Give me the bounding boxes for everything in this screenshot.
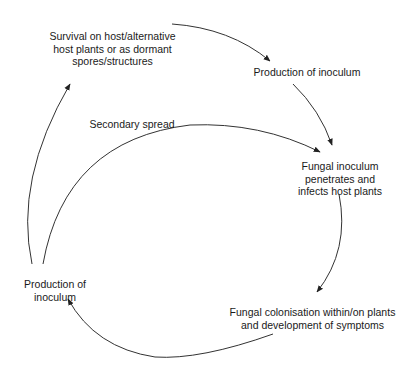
node-survival-line-1: Survival on host/alternative (40, 30, 185, 43)
node-colonisation-line-2: and development of symptoms (225, 319, 400, 332)
arrow-secondary-spread (43, 125, 320, 264)
node-production-of-inoculum-left: Production of inoculum (15, 278, 95, 303)
node-survival-line-3: spores/structures (40, 55, 185, 68)
node-production-left-line-1: Production of (15, 278, 95, 291)
node-penetrates-line-2: penetrates and (290, 173, 390, 186)
arrow-production-left-to-survival (28, 84, 70, 264)
node-penetrates-line-3: infects host plants (290, 185, 390, 198)
node-production-of-inoculum-top: Production of inoculum (232, 66, 382, 79)
node-survival-line-2: host plants or as dormant (40, 43, 185, 56)
arrow-penetrates-to-colonisation (317, 194, 342, 292)
node-penetrates-line-1: Fungal inoculum (290, 160, 390, 173)
edge-label-secondary-spread: Secondary spread (82, 118, 182, 131)
arrow-production-to-penetrates (293, 84, 332, 145)
secondary-spread-label: Secondary spread (82, 118, 182, 131)
node-survival: Survival on host/alternative host plants… (40, 30, 185, 68)
node-fungal-colonisation: Fungal colonisation within/on plants and… (225, 306, 400, 331)
node-colonisation-line-1: Fungal colonisation within/on plants (225, 306, 400, 319)
node-production-left-line-2: inoculum (15, 291, 95, 304)
arrow-survival-to-production (172, 24, 270, 61)
node-fungal-inoculum-penetrates: Fungal inoculum penetrates and infects h… (290, 160, 390, 198)
node-production-top-line-1: Production of inoculum (232, 66, 382, 79)
